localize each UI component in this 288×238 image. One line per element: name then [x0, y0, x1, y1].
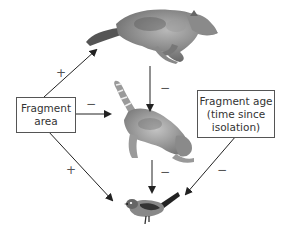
arrow-age-to-bird — [186, 136, 236, 194]
sign-cat-to-bird: − — [160, 166, 170, 178]
coyote-illustration — [86, 10, 218, 64]
fragment-area-box: Fragment area — [16, 97, 76, 133]
sign-area-to-coyote: + — [56, 67, 66, 79]
arrow-area-to-coyote — [44, 50, 96, 97]
sign-area-to-bird: + — [66, 164, 76, 176]
trophic-cascade-diagram: Fragment area Fragment age (time since i… — [0, 0, 288, 238]
fragment-age-line-2: (time since — [198, 108, 274, 121]
arrow-area-to-bird — [48, 131, 112, 200]
fragment-age-box: Fragment age (time since isolation) — [197, 90, 275, 138]
fragment-area-line-1: Fragment — [17, 102, 75, 115]
fragment-age-line-3: isolation) — [198, 121, 274, 134]
sign-age-to-bird: − — [217, 164, 227, 176]
sign-coyote-to-cat: − — [160, 82, 170, 94]
fragment-age-line-1: Fragment age — [198, 95, 274, 108]
cat-illustration — [114, 81, 194, 163]
sign-area-to-cat: − — [86, 98, 96, 110]
fragment-area-line-2: area — [17, 115, 75, 128]
bird-illustration — [124, 192, 180, 224]
